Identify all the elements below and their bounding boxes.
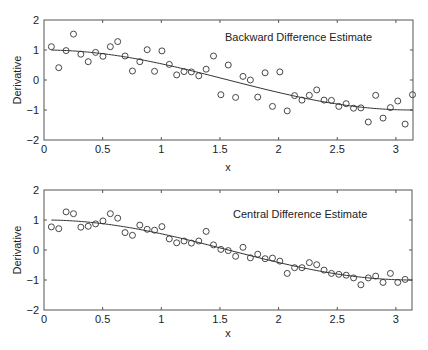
data-point-marker [107, 211, 113, 217]
x-tick-label: 1 [158, 143, 164, 155]
y-tick-label: −2 [26, 134, 39, 146]
y-tick-label: −1 [26, 274, 39, 286]
data-point-marker [100, 218, 106, 224]
x-tick-label: 1.5 [212, 143, 227, 155]
y-tick-label: 1 [33, 214, 39, 226]
true-derivative-line [51, 50, 412, 110]
data-point-marker [78, 224, 84, 230]
x-tick-label: 3 [393, 313, 399, 325]
data-point-marker [70, 211, 76, 217]
figure-canvas: 00.511.522.53210−1−2 Backward Difference… [0, 0, 428, 350]
data-point-marker [269, 103, 275, 109]
x-tick-label: 2.5 [330, 313, 345, 325]
data-point-marker [328, 97, 334, 103]
figure: 00.511.522.53210−1−2 Backward Difference… [0, 0, 428, 350]
y-axis-label: Derivative [11, 56, 23, 105]
data-point-marker [233, 253, 239, 259]
data-point-marker [166, 236, 172, 242]
x-tick-label: 0.5 [95, 143, 110, 155]
data-point-marker [306, 92, 312, 98]
data-point-marker [115, 215, 121, 221]
central-difference-panel: 00.511.522.53210−1−2 Central Difference … [11, 184, 413, 339]
y-tick-label: 1 [33, 44, 39, 56]
data-point-marker [122, 230, 128, 236]
data-point-marker [358, 105, 364, 111]
x-tick-label: 1 [158, 313, 164, 325]
data-point-marker [129, 232, 135, 238]
data-point-marker [56, 226, 62, 232]
y-axis-label: Derivative [11, 226, 23, 275]
data-point-marker [218, 92, 224, 98]
data-point-marker [211, 242, 217, 248]
data-point-marker [269, 255, 275, 261]
data-point-marker [373, 92, 379, 98]
data-point-marker [395, 98, 401, 104]
y-tick-label: 2 [33, 184, 39, 196]
data-point-marker [107, 44, 113, 50]
data-point-marker [159, 48, 165, 54]
x-tick-label: 1.5 [212, 313, 227, 325]
data-point-marker [218, 246, 224, 252]
data-point-marker [93, 221, 99, 227]
data-point-marker [203, 228, 209, 234]
data-point-marker [144, 47, 150, 53]
data-point-marker [358, 282, 364, 288]
data-point-marker [255, 251, 261, 257]
data-point-marker [203, 66, 209, 72]
data-point-marker [152, 68, 158, 74]
data-point-marker [181, 69, 187, 75]
x-tick-label: 2 [276, 313, 282, 325]
tick-labels: 00.511.522.53210−1−2 [26, 184, 399, 325]
data-point-marker [174, 240, 180, 246]
data-point-marker [240, 244, 246, 250]
data-point-marker [196, 238, 202, 244]
data-point-marker [137, 222, 143, 228]
y-tick-label: 0 [33, 74, 39, 86]
data-point-marker [211, 53, 217, 59]
x-axis-label: x [225, 161, 231, 173]
plot-annotation-title: Central Difference Estimate [233, 208, 367, 220]
data-point-marker [284, 270, 290, 276]
data-point-marker [78, 51, 84, 57]
data-point-marker [284, 108, 290, 114]
data-point-marker [48, 44, 54, 50]
plot-annotation-title: Backward Difference Estimate [225, 31, 372, 43]
data-point-marker [196, 73, 202, 79]
data-point-marker [122, 53, 128, 59]
data-point-marker [314, 87, 320, 93]
data-point-marker [402, 121, 408, 127]
data-point-marker [70, 31, 76, 37]
data-point-marker [115, 39, 121, 45]
data-point-marker [48, 224, 54, 230]
data-point-marker [129, 68, 135, 74]
data-point-marker [387, 270, 393, 276]
data-point-marker [306, 260, 312, 266]
y-tick-label: −1 [26, 104, 39, 116]
data-point-marker [314, 262, 320, 268]
x-tick-label: 2 [276, 143, 282, 155]
data-point-marker [247, 77, 253, 83]
data-point-marker [262, 70, 268, 76]
x-tick-label: 0 [41, 313, 47, 325]
true-derivative-line [51, 220, 412, 280]
data-point-marker [63, 209, 69, 215]
data-point-marker [255, 94, 261, 100]
data-point-marker [174, 72, 180, 78]
backward-difference-panel: 00.511.522.53210−1−2 Backward Difference… [11, 14, 416, 173]
data-point-marker [380, 279, 386, 285]
data-point-marker [159, 224, 165, 230]
data-point-marker [233, 94, 239, 100]
data-point-marker [395, 279, 401, 285]
data-point-marker [225, 62, 231, 68]
data-point-marker [85, 59, 91, 65]
x-tick-label: 0 [41, 143, 47, 155]
data-point-marker [166, 61, 172, 67]
y-tick-label: −2 [26, 304, 39, 316]
data-point-marker [188, 69, 194, 75]
x-tick-label: 3 [393, 143, 399, 155]
data-point-marker [277, 69, 283, 75]
data-point-marker [56, 65, 62, 71]
x-tick-label: 2.5 [330, 143, 345, 155]
estimate-markers [48, 31, 415, 127]
data-point-marker [85, 223, 91, 229]
